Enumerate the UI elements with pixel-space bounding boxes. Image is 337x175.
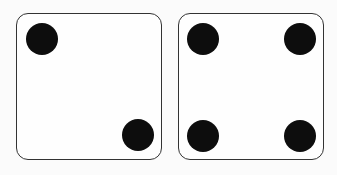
pip-icon — [187, 120, 219, 152]
pip-icon — [284, 23, 316, 55]
pip-icon — [26, 23, 58, 55]
pip-icon — [122, 119, 154, 151]
die-right — [178, 13, 324, 160]
die-left — [16, 13, 162, 160]
pip-icon — [284, 120, 316, 152]
pip-icon — [187, 23, 219, 55]
